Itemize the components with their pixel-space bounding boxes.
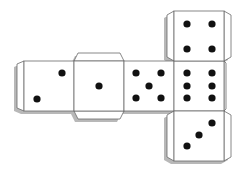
left-tab-face-three — [167, 111, 174, 161]
pip-dot — [183, 45, 190, 52]
pip-dot — [208, 119, 215, 126]
right-tab-face-three — [224, 111, 231, 161]
face-six — [174, 61, 224, 111]
pip-dot — [157, 94, 164, 101]
dice-faces — [24, 11, 224, 161]
pip-dot — [132, 94, 139, 101]
pip-dot — [145, 82, 152, 89]
top-tab-face-one — [74, 53, 124, 61]
pip-dot — [183, 94, 190, 101]
pip-dot — [208, 45, 215, 52]
face-five — [124, 61, 174, 111]
pip-dot — [208, 94, 215, 101]
left-tab-face-two — [17, 61, 24, 111]
face-four — [174, 11, 224, 61]
pip-dot — [208, 69, 215, 76]
pip-dot — [195, 131, 202, 138]
face-two — [24, 61, 74, 111]
face-three — [174, 111, 224, 161]
dice-net-diagram — [0, 0, 241, 172]
pip-dot — [95, 82, 102, 89]
face-two-square — [24, 61, 74, 111]
pip-dot — [183, 69, 190, 76]
pip-dot — [183, 20, 190, 27]
pip-dot — [132, 69, 139, 76]
pip-dot — [183, 82, 190, 89]
pip-dot — [157, 69, 164, 76]
left-tab-face-four — [167, 11, 174, 61]
pip-dot — [33, 95, 40, 102]
bottom-tab-face-one — [74, 111, 124, 119]
face-one — [74, 61, 124, 111]
right-tab-face-four — [224, 11, 231, 61]
face-four-square — [174, 11, 224, 61]
face-six-square — [174, 61, 224, 111]
pip-dot — [208, 82, 215, 89]
pip-dot — [183, 142, 190, 149]
pip-dot — [208, 20, 215, 27]
pip-dot — [58, 69, 65, 76]
